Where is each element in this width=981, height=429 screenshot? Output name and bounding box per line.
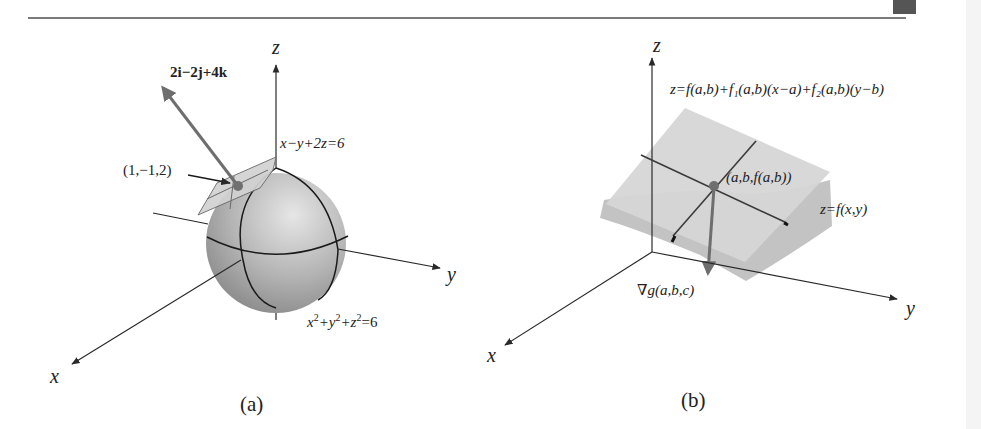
z-axis-label-a: z — [272, 37, 280, 57]
caption-a: (a) — [240, 394, 263, 415]
normal-vector-label: 2i−2j+4k — [170, 65, 227, 80]
x-axis-a — [72, 260, 241, 364]
plane-equation-label: x−y+2z=6 — [280, 136, 345, 151]
panel-a — [72, 65, 440, 364]
sphere-equation-label: x2+y2+z2=6 — [307, 313, 377, 330]
point-label-b: (a,b,f(a,b)) — [726, 170, 791, 185]
x-axis-b — [505, 252, 652, 345]
y-axis-label-b: y — [906, 298, 915, 318]
normal-vector-arrow — [163, 88, 238, 186]
surface-equation-label: z=f(x,y) — [820, 202, 867, 217]
gradient-label: ∇g(a,b,c) — [637, 283, 694, 298]
tangent-plane-equation-label: z=f(a,b)+f₁(a,b)(x−a)+f₂(a,b)(y−b) — [670, 82, 884, 97]
x-axis-label-a: x — [50, 366, 59, 386]
caption-b: (b) — [681, 390, 706, 411]
point-label-a: (1,−1,2) — [123, 163, 171, 178]
z-axis-label-b: z — [653, 35, 661, 55]
tangent-point — [233, 181, 243, 191]
y-axis-label-a: y — [447, 264, 456, 284]
point-pointer-arrow — [188, 175, 230, 183]
y-axis-a — [338, 249, 440, 268]
x-axis-label-b: x — [487, 345, 496, 365]
